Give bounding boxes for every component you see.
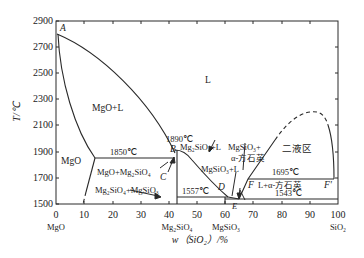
point-f-prime-label: F' [323,180,333,190]
region-liquid: L [205,75,211,85]
svg-text:10: 10 [79,209,89,220]
region-two-liquid: 二液区 [282,143,312,154]
phase-diagram: 1500 1700 1900 2100 2300 2500 2700 2900 … [0,0,364,258]
region-mgsio3-cristobalite-1: MgSiO₃+ [228,142,261,152]
svg-text:60: 60 [220,209,230,220]
svg-text:2300: 2300 [33,93,53,104]
svg-text:2700: 2700 [33,41,53,52]
x-compound-mgsio3: MgSiO₃ [212,222,240,232]
svg-text:100: 100 [331,209,346,220]
svg-text:20: 20 [108,209,118,220]
point-b-label: B [170,144,176,154]
isotherm-1850-label: 1850℃ [110,147,137,157]
x-compound-sio2: SiO₂ [330,222,346,232]
point-f-label: F [247,180,254,190]
svg-text:70: 70 [248,209,258,220]
region-mg2sio4-mgsio3: Mg₂SiO₄+MgSiO₃ [95,185,159,195]
svg-text:2100: 2100 [33,119,53,130]
region-mg2sio4-liquid: Mg₂SiO₄+L [180,142,221,152]
phase-lines [57,34,338,204]
isotherm-1557-label: 1557℃ [182,186,209,196]
x-compound-mgo: MgO [47,222,65,232]
point-c-label: C [160,172,167,182]
region-liquid-cristobalite: L+α-方石英 [258,180,302,190]
region-mgo-liquid: MgO+L [92,103,123,113]
point-d-label: D [217,182,225,192]
point-a-label: A [59,23,66,33]
svg-text:2900: 2900 [33,15,53,26]
svg-text:2500: 2500 [33,67,53,78]
svg-text:30: 30 [136,209,146,220]
svg-text:40: 40 [164,209,174,220]
region-mgo-mg2sio4: MgO+Mg₂SiO₄ [97,167,151,177]
svg-text:90: 90 [305,209,315,220]
point-e-label: E [231,201,238,211]
svg-text:80: 80 [277,209,287,220]
x-axis-title: w（SiO₂）/% [172,234,228,245]
svg-text:1900: 1900 [33,146,53,157]
region-mgsio3-cristobalite-2: α-方石英 [231,153,265,163]
svg-text:1700: 1700 [33,172,53,183]
y-axis-title: T/℃ [11,100,22,121]
svg-text:0: 0 [54,209,59,220]
y-tick-labels: 1500 1700 1900 2100 2300 2500 2700 2900 [33,15,53,209]
isotherm-1695-label: 1695℃ [272,167,299,177]
region-mgsio3-liquid: MgSiO₃+L [201,164,239,174]
svg-text:1500: 1500 [33,198,53,209]
x-tick-labels: 0 10 20 30 40 50 60 70 80 90 100 [54,209,346,220]
x-compound-mg2sio4: Mg₂SiO₄ [162,222,193,232]
svg-text:50: 50 [192,209,202,220]
region-mgo: MgO [61,156,81,166]
